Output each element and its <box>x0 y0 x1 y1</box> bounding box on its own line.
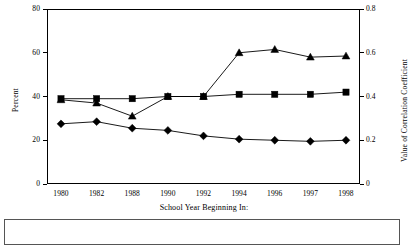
data-point-diamond <box>342 136 350 144</box>
data-point-square <box>343 89 349 95</box>
secondary-y-axis-tick-label: 0.4 <box>366 93 392 101</box>
series-diamond <box>57 118 350 145</box>
tick-mark <box>360 96 364 97</box>
x-axis-tick-label: 1988 <box>112 189 152 198</box>
tick-mark <box>360 52 364 53</box>
data-point-square <box>272 91 278 97</box>
x-axis-tick-label: 1980 <box>41 189 81 198</box>
secondary-y-axis-tick-label: 0.2 <box>366 136 392 144</box>
data-point-diamond <box>235 135 243 143</box>
secondary-y-axis-tick-label: 0.6 <box>366 49 392 57</box>
secondary-y-axis-tick-label: 0 <box>366 180 392 188</box>
data-point-diamond <box>164 127 172 135</box>
data-point-triangle <box>271 46 279 53</box>
data-point-diamond <box>306 137 314 145</box>
x-axis-tick-label: 1982 <box>77 189 117 198</box>
y-axis-title: Percent <box>11 88 20 112</box>
x-axis-tick-label: 1997 <box>290 189 330 198</box>
data-point-triangle <box>128 112 136 119</box>
secondary-y-axis-tick-label: 0.8 <box>366 5 392 13</box>
data-point-diamond <box>271 136 279 144</box>
secondary-y-axis-title: Value of Correlation Coefficient <box>400 59 408 162</box>
x-axis-tick-label: 1994 <box>219 189 259 198</box>
data-point-diamond <box>200 132 208 140</box>
data-point-diamond <box>57 120 65 128</box>
y-axis-tick-label: 0 <box>16 180 40 188</box>
data-point-square <box>307 91 313 97</box>
data-point-diamond <box>128 124 136 132</box>
tick-mark <box>360 184 364 185</box>
series-layer <box>47 9 360 184</box>
x-axis-tick-label: 1998 <box>326 189 366 198</box>
legend-box <box>4 219 400 245</box>
data-point-triangle <box>342 52 350 59</box>
x-axis-title: School Year Beginning In: <box>0 203 408 212</box>
data-point-square <box>129 96 135 102</box>
y-axis-tick-label: 80 <box>16 5 40 13</box>
series-triangle <box>57 46 350 120</box>
tick-mark <box>360 140 364 141</box>
legend-content <box>7 222 397 242</box>
x-axis-tick-label: 1990 <box>148 189 188 198</box>
tick-mark <box>360 9 364 10</box>
y-axis-tick-label: 20 <box>16 136 40 144</box>
data-point-diamond <box>93 118 101 126</box>
data-point-square <box>236 91 242 97</box>
x-axis-tick-label: 1996 <box>255 189 295 198</box>
x-axis-tick-label: 1992 <box>184 189 224 198</box>
plot-area <box>47 9 360 184</box>
y-axis-tick-label: 60 <box>16 49 40 57</box>
